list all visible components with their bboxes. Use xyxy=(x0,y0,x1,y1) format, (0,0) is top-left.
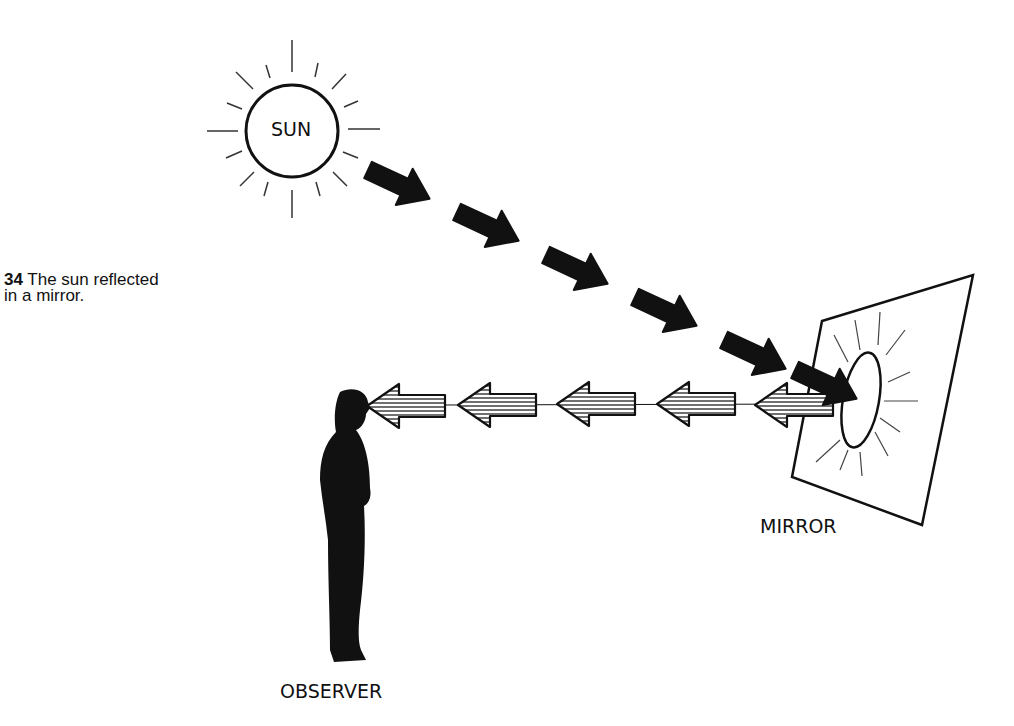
incoming-arrow-1 xyxy=(360,152,439,217)
figure-caption: 34 The sun reflected in a mirror. xyxy=(4,272,159,304)
incoming-arrow-3 xyxy=(538,237,617,302)
incoming-arrow-2 xyxy=(449,194,528,259)
reflected-arrow-1 xyxy=(367,384,445,428)
observer-silhouette-icon xyxy=(320,389,371,662)
incoming-rays xyxy=(360,152,866,417)
observer-label: OBSERVER xyxy=(280,680,382,702)
reflected-rays xyxy=(367,382,833,428)
reflected-arrow-3 xyxy=(557,382,635,426)
reflected-arrow-2 xyxy=(458,383,536,427)
incoming-arrow-4 xyxy=(627,279,706,344)
reflected-arrow-4 xyxy=(657,382,735,426)
mirror-label: MIRROR xyxy=(760,515,837,537)
caption-text-line2: in a mirror. xyxy=(4,286,84,305)
diagram-art xyxy=(0,0,1014,726)
figure-page: 34 The sun reflected in a mirror. SUN MI… xyxy=(0,0,1014,726)
sun-label: SUN xyxy=(271,118,311,140)
incoming-arrow-5 xyxy=(716,322,795,387)
